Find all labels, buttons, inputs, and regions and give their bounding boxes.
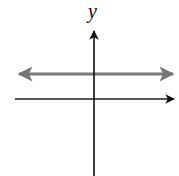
y-axis-label: y — [88, 1, 97, 21]
coordinate-plane-figure: y — [0, 0, 179, 176]
coordinate-plane-svg — [0, 0, 179, 176]
